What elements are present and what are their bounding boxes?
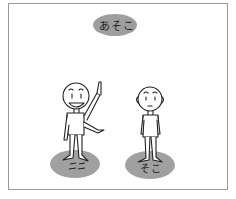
left-ground-patch [50, 150, 100, 178]
listener-figure [137, 87, 164, 162]
speaker-figure [63, 82, 104, 161]
top-label: あそこ [99, 17, 135, 33]
right-ground-label: そこ [140, 160, 162, 175]
